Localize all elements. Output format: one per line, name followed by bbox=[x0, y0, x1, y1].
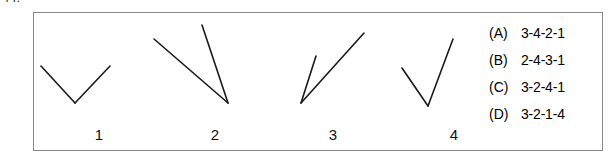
angle-figure-4-arm-1 bbox=[402, 68, 428, 106]
figure-label-3: 3 bbox=[322, 127, 344, 143]
angle-figure-3-arm-1 bbox=[301, 56, 316, 103]
question-number: 44. bbox=[2, 0, 20, 5]
answer-option-d[interactable]: (D) 3-2-1-4 bbox=[489, 106, 609, 133]
figure-label-2: 2 bbox=[204, 127, 226, 143]
angle-figure-4 bbox=[402, 39, 453, 106]
answer-key-d: (D) bbox=[489, 106, 521, 122]
answer-option-a[interactable]: (A) 3-4-2-1 bbox=[489, 25, 609, 52]
angle-figure-2 bbox=[154, 25, 228, 103]
figure-label-4: 4 bbox=[443, 127, 465, 143]
angle-figure-1-arm-2 bbox=[75, 66, 110, 103]
angle-figure-3 bbox=[301, 33, 364, 103]
angle-figure-4-arm-2 bbox=[428, 39, 453, 106]
angle-figure-3-arm-2 bbox=[301, 33, 364, 103]
answer-key-b: (B) bbox=[489, 52, 521, 68]
figure-panel: 1 2 3 4 (A) 3-4-2-1 (B) 2-4-3-1 (C) 3-2-… bbox=[33, 12, 603, 151]
angle-figure-1 bbox=[41, 66, 110, 103]
answer-option-b[interactable]: (B) 2-4-3-1 bbox=[489, 52, 609, 79]
angle-figure-1-arm-1 bbox=[41, 66, 75, 103]
angle-lines-group bbox=[41, 25, 453, 106]
answer-options-list: (A) 3-4-2-1 (B) 2-4-3-1 (C) 3-2-4-1 (D) … bbox=[489, 25, 609, 133]
answer-value-c: 3-2-4-1 bbox=[521, 79, 565, 95]
figure-label-1: 1 bbox=[88, 127, 110, 143]
answer-key-a: (A) bbox=[489, 25, 521, 41]
answer-key-c: (C) bbox=[489, 79, 521, 95]
answer-value-d: 3-2-1-4 bbox=[521, 106, 565, 122]
answer-option-c[interactable]: (C) 3-2-4-1 bbox=[489, 79, 609, 106]
answer-value-a: 3-4-2-1 bbox=[521, 25, 565, 41]
answer-value-b: 2-4-3-1 bbox=[521, 52, 565, 68]
